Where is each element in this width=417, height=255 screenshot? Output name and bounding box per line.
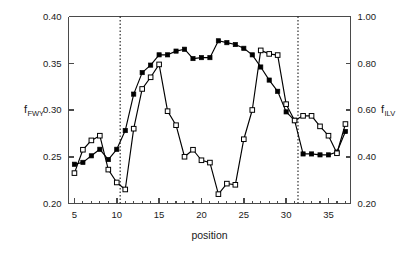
series-marker-f_ILV (106, 167, 111, 172)
x-axis-label: position (191, 229, 227, 241)
series-marker-f_FWY (259, 65, 263, 69)
right-axis-label-subscript: ILV (384, 109, 395, 118)
y2-tick-label: 0.40 (358, 151, 377, 162)
x-tick-label: 35 (323, 209, 334, 220)
series-marker-f_FWY (318, 153, 322, 157)
series-marker-f_FWY (149, 63, 153, 67)
series-marker-f_ILV (131, 126, 136, 131)
series-marker-f_ILV (267, 52, 272, 57)
series-marker-f_FWY (225, 41, 229, 45)
x-tick-label: 15 (154, 209, 165, 220)
y2-tick-label: 0.60 (358, 104, 377, 115)
chart-canvas: 0.200.250.300.350.400.200.400.600.801.00… (0, 0, 417, 255)
series-marker-f_ILV (292, 118, 297, 123)
series-marker-f_ILV (165, 109, 170, 114)
series-marker-f_FWY (140, 71, 144, 75)
series-marker-f_ILV (157, 62, 162, 67)
series-marker-f_FWY (216, 39, 220, 43)
series-marker-f_ILV (343, 122, 348, 127)
series-marker-f_ILV (191, 147, 196, 152)
series-line-f_ILV (74, 50, 345, 194)
series-marker-f_FWY (199, 56, 203, 60)
series-marker-f_FWY (106, 157, 110, 161)
right-axis-label: fILV (381, 103, 395, 118)
series-marker-f_FWY (208, 56, 212, 60)
series-marker-f_FWY (98, 147, 102, 151)
y-tick-label: 0.20 (43, 198, 62, 209)
series-marker-f_FWY (276, 89, 280, 93)
series-marker-f_FWY (242, 46, 246, 50)
series-marker-f_ILV (318, 124, 323, 129)
reference-lines-group (120, 17, 298, 204)
tick-labels-group: 0.200.250.300.350.400.200.400.600.801.00… (43, 11, 376, 220)
series-marker-f_ILV (114, 180, 119, 185)
series-marker-f_ILV (233, 183, 238, 188)
series-marker-f_ILV (72, 171, 77, 176)
y-tick-label: 0.40 (43, 11, 62, 22)
x-tick-label: 25 (239, 209, 250, 220)
series-marker-f_FWY (233, 42, 237, 46)
series-marker-f_ILV (148, 75, 153, 80)
series-marker-f_ILV (275, 53, 280, 58)
series-marker-f_FWY (132, 92, 136, 96)
y-tick-label: 0.25 (43, 151, 62, 162)
series-marker-f_ILV (98, 133, 103, 138)
x-tick-label: 5 (72, 209, 77, 220)
y-tick-label: 0.35 (43, 58, 62, 69)
series-marker-f_ILV (335, 151, 340, 156)
series-marker-f_FWY (174, 49, 178, 53)
series-marker-f_ILV (208, 160, 213, 165)
series-marker-f_FWY (72, 162, 76, 166)
axis-labels-group: fFWYfILVposition (24, 103, 395, 241)
series-marker-f_ILV (250, 108, 255, 113)
series-marker-f_FWY (301, 152, 305, 156)
x-tick-label: 30 (281, 209, 292, 220)
series-group (72, 39, 348, 197)
series-marker-f_FWY (267, 78, 271, 82)
series-marker-f_ILV (225, 181, 230, 186)
series-marker-f_ILV (309, 114, 314, 119)
series-marker-f_ILV (301, 114, 306, 119)
series-marker-f_ILV (182, 154, 187, 159)
series-marker-f_FWY (284, 110, 288, 114)
series-marker-f_ILV (174, 123, 179, 128)
series-marker-f_FWY (309, 152, 313, 156)
series-marker-f_ILV (258, 48, 263, 53)
axes-group (69, 17, 351, 204)
series-marker-f_FWY (89, 154, 93, 158)
series-marker-f_ILV (89, 138, 94, 143)
figure-container: 0.200.250.300.350.400.200.400.600.801.00… (0, 0, 417, 255)
x-tick-label: 10 (111, 209, 122, 220)
series-marker-f_ILV (326, 133, 331, 138)
series-marker-f_ILV (284, 102, 289, 107)
series-marker-f_ILV (81, 147, 86, 152)
series-marker-f_FWY (123, 128, 127, 132)
left-axis-label: fFWY (24, 103, 44, 118)
left-axis-label-subscript: FWY (27, 109, 44, 118)
series-marker-f_FWY (165, 53, 169, 57)
series-marker-f_ILV (123, 187, 128, 192)
series-marker-f_ILV (216, 192, 221, 197)
series-marker-f_ILV (140, 87, 145, 92)
series-marker-f_FWY (191, 56, 195, 60)
series-marker-f_FWY (157, 53, 161, 57)
x-tick-label: 20 (196, 209, 207, 220)
series-marker-f_FWY (115, 147, 119, 151)
series-marker-f_FWY (326, 153, 330, 157)
series-marker-f_FWY (81, 160, 85, 164)
y2-tick-label: 0.20 (358, 198, 377, 209)
y-tick-label: 0.30 (43, 104, 62, 115)
series-marker-f_ILV (242, 137, 247, 142)
series-marker-f_ILV (199, 158, 204, 163)
y2-tick-label: 0.80 (358, 58, 377, 69)
series-marker-f_FWY (250, 53, 254, 57)
series-marker-f_FWY (182, 47, 186, 51)
y2-tick-label: 1.00 (358, 11, 377, 22)
